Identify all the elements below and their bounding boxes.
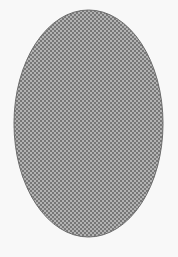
canvas-background: [0, 0, 178, 257]
checkered-ellipse: [14, 10, 163, 237]
figure-svg: [0, 0, 178, 257]
